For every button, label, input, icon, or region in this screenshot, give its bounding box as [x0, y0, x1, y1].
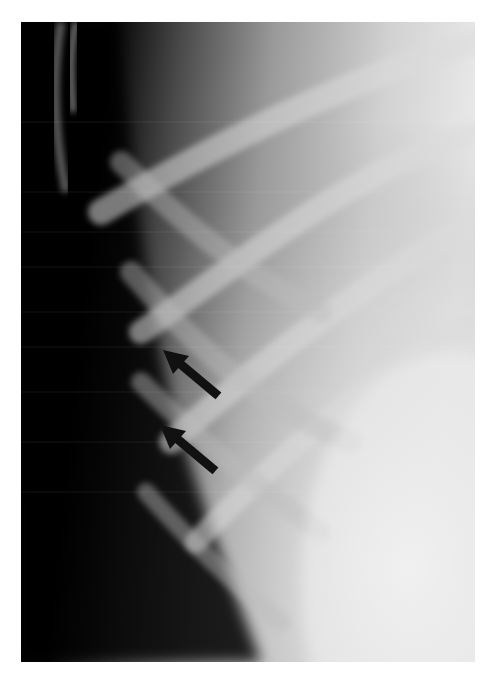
- radiograph-image: [21, 22, 475, 662]
- arrow-icon: [21, 22, 475, 662]
